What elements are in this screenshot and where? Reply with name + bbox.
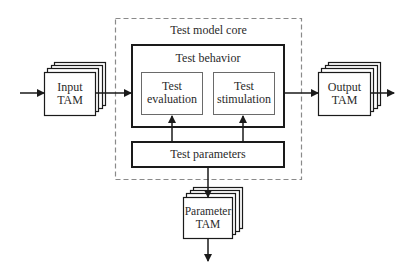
test-model-core-label: Test model core xyxy=(115,24,302,37)
input-tam-label: Input TAM xyxy=(44,81,96,107)
test-evaluation-label: Test evaluation xyxy=(141,80,203,106)
parameter-tam-line2: TAM xyxy=(183,218,233,231)
output-tam-label: Output TAM xyxy=(318,81,371,107)
diagram-canvas xyxy=(0,0,414,277)
test-stimulation-line2: stimulation xyxy=(213,93,275,106)
parameter-tam-line1: Parameter xyxy=(183,205,233,218)
test-parameters-label: Test parameters xyxy=(132,148,284,161)
parameter-tam-label: Parameter TAM xyxy=(183,205,233,231)
test-evaluation-line2: evaluation xyxy=(141,93,203,106)
input-tam-line2: TAM xyxy=(44,94,96,107)
output-tam-line2: TAM xyxy=(318,94,371,107)
test-stimulation-label: Test stimulation xyxy=(213,80,275,106)
test-behavior-label: Test behavior xyxy=(132,52,284,65)
